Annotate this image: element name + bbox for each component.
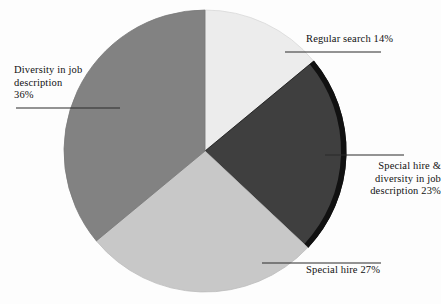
- slice-label-regular-search: Regular search 14%: [306, 33, 426, 46]
- pie-chart-figure: Regular search 14% Special hire & divers…: [0, 0, 441, 304]
- slice-label-special-hire: Special hire 27%: [306, 264, 436, 277]
- slice-label-special-hire-and-diversity: Special hire & diversity in job descript…: [349, 160, 441, 198]
- slice-label-diversity-in-job-description: Diversity in job description 36%: [14, 64, 139, 102]
- pie-chart-canvas: [0, 0, 441, 304]
